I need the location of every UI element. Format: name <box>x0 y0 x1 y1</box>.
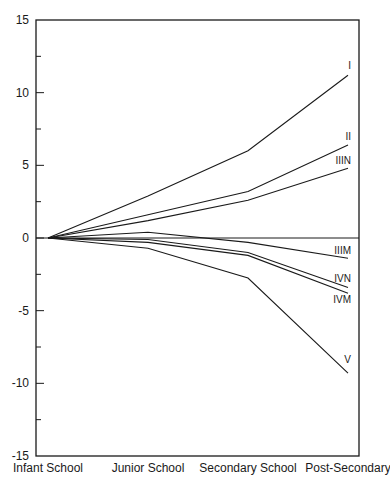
series-label-ivm: IVM <box>333 294 351 305</box>
y-tick-label: 5 <box>22 158 29 172</box>
series-line-v <box>48 238 348 373</box>
y-tick-label: -5 <box>18 304 29 318</box>
series-label-v: V <box>344 354 351 365</box>
series-label-iiin: IIIN <box>335 155 351 166</box>
x-tick-label: Post-Secondary <box>305 461 390 475</box>
y-tick-label: -10 <box>12 376 30 390</box>
y-tick-label: 15 <box>16 13 30 27</box>
series-label-iiim: IIIM <box>334 245 351 256</box>
series-label-ii: II <box>345 131 351 142</box>
series-line-iiim <box>48 232 348 258</box>
series-lines <box>36 75 359 373</box>
series-labels: IIIIIINIIIMIVNIVMV <box>333 60 351 365</box>
series-line-i <box>48 75 348 238</box>
series-label-ivn: IVN <box>334 273 351 284</box>
series-label-i: I <box>348 60 351 71</box>
x-tick-label: Junior School <box>112 461 185 475</box>
series-line-ii <box>48 145 348 238</box>
x-axis: Infant SchoolJunior SchoolSecondary Scho… <box>13 461 390 475</box>
x-tick-label: Secondary School <box>199 461 296 475</box>
x-tick-label: Infant School <box>13 461 83 475</box>
line-chart: 151050-5-10-15 Infant SchoolJunior Schoo… <box>0 0 390 495</box>
y-tick-label: 10 <box>16 86 30 100</box>
y-tick-label: 0 <box>22 231 29 245</box>
